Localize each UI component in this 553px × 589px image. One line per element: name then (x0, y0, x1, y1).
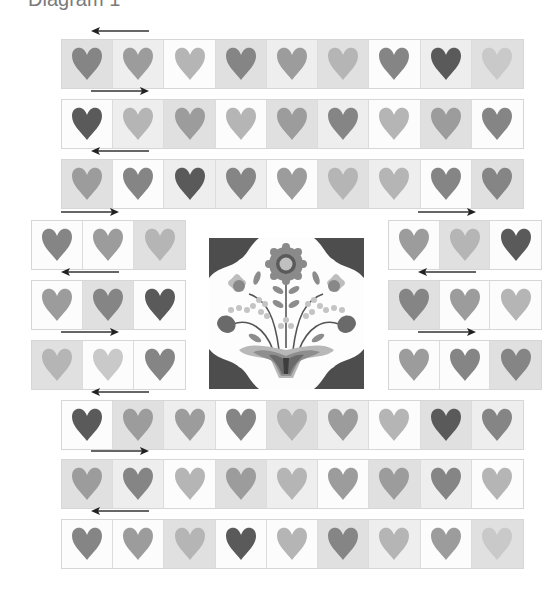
heart-icon (446, 226, 484, 264)
heart-icon (497, 226, 535, 264)
heart-icon (222, 105, 260, 143)
heart-icon (119, 165, 157, 203)
heart-icon (141, 226, 179, 264)
top-row-3 (61, 159, 524, 209)
heart-icon (89, 286, 127, 324)
heart-block (267, 460, 318, 508)
heart-block (421, 520, 472, 568)
heart-block (421, 401, 472, 449)
heart-block (440, 281, 491, 329)
heart-icon (324, 465, 362, 503)
heart-block (164, 40, 215, 88)
heart-block (472, 460, 523, 508)
heart-block (490, 221, 541, 269)
heart-icon (273, 45, 311, 83)
heart-block (490, 341, 541, 389)
left-row-3 (31, 340, 186, 390)
pressing-arrow-right-icon (61, 207, 119, 217)
heart-block (83, 281, 134, 329)
heart-icon (395, 226, 433, 264)
right-row-1 (388, 220, 542, 270)
heart-block (318, 160, 369, 208)
heart-block (62, 100, 113, 148)
heart-block (267, 160, 318, 208)
heart-block (369, 100, 420, 148)
right-row-2 (388, 280, 542, 330)
heart-block (421, 100, 472, 148)
heart-block (472, 401, 523, 449)
heart-block (472, 40, 523, 88)
heart-icon (68, 525, 106, 563)
heart-icon (273, 406, 311, 444)
heart-icon (478, 465, 516, 503)
heart-icon (273, 105, 311, 143)
heart-icon (478, 406, 516, 444)
heart-icon (375, 465, 413, 503)
heart-block (267, 100, 318, 148)
heart-icon (68, 105, 106, 143)
right-row-3 (388, 340, 542, 390)
heart-icon (478, 45, 516, 83)
left-row-1 (31, 220, 186, 270)
heart-icon (324, 105, 362, 143)
heart-block (216, 520, 267, 568)
heart-icon (38, 286, 76, 324)
heart-icon (68, 406, 106, 444)
bottom-row-3 (61, 519, 524, 569)
pressing-arrow-right-icon (91, 86, 149, 96)
heart-block (164, 100, 215, 148)
heart-icon (222, 45, 260, 83)
heart-icon (375, 105, 413, 143)
heart-icon (171, 105, 209, 143)
heart-block (472, 160, 523, 208)
heart-icon (427, 525, 465, 563)
heart-block (421, 40, 472, 88)
top-row-2 (61, 99, 524, 149)
heart-block (32, 341, 83, 389)
heart-icon (222, 165, 260, 203)
heart-icon (497, 286, 535, 324)
heart-icon (273, 165, 311, 203)
heart-block (164, 460, 215, 508)
pressing-arrow-right-icon (91, 446, 149, 456)
heart-block (318, 460, 369, 508)
heart-icon (427, 165, 465, 203)
heart-block (216, 460, 267, 508)
heart-icon (273, 525, 311, 563)
heart-icon (324, 406, 362, 444)
heart-block (369, 40, 420, 88)
heart-block (421, 160, 472, 208)
heart-block (267, 40, 318, 88)
heart-icon (497, 346, 535, 384)
heart-icon (68, 165, 106, 203)
heart-block (164, 160, 215, 208)
heart-block (267, 401, 318, 449)
heart-icon (427, 406, 465, 444)
heart-icon (141, 346, 179, 384)
pressing-arrow-left-icon (91, 506, 149, 516)
bottom-row-1 (61, 400, 524, 450)
left-row-2 (31, 280, 186, 330)
pressing-arrow-left-icon (418, 267, 476, 277)
flower-applique-block (209, 238, 364, 389)
heart-block (164, 520, 215, 568)
heart-block (318, 40, 369, 88)
heart-block (164, 401, 215, 449)
heart-block (32, 221, 83, 269)
heart-icon (171, 525, 209, 563)
heart-icon (119, 465, 157, 503)
heart-block (318, 520, 369, 568)
heart-block (490, 281, 541, 329)
heart-icon (89, 346, 127, 384)
heart-icon (446, 286, 484, 324)
top-flower (265, 243, 307, 285)
heart-icon (324, 525, 362, 563)
heart-block (113, 460, 164, 508)
heart-block (32, 281, 83, 329)
pressing-arrow-left-icon (91, 26, 149, 36)
pressing-arrow-left-icon (61, 267, 119, 277)
heart-icon (222, 525, 260, 563)
heart-icon (427, 105, 465, 143)
pressing-arrow-left-icon (91, 387, 149, 397)
heart-icon (375, 525, 413, 563)
